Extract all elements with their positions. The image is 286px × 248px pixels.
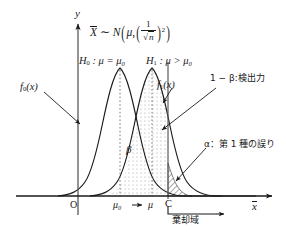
h1-value: μ₀ — [183, 55, 192, 66]
leader-line-f0 — [44, 92, 80, 124]
formula-xbar: X — [90, 27, 97, 39]
formula-tilde: ∼ — [100, 26, 110, 38]
power-annotation: 1 − β:検出力 — [210, 74, 265, 83]
f1-arg: (x) — [163, 79, 175, 90]
null-hypothesis-label: H0 : μ = μ₀ — [79, 56, 125, 67]
f0-annotation: f0(x) — [20, 82, 38, 93]
origin-label: O — [70, 200, 77, 210]
h1-param: μ — [166, 55, 171, 66]
tick-label-c: C — [165, 199, 172, 210]
h0-sub: 0 — [87, 59, 90, 66]
h1-name: H — [146, 55, 154, 66]
statistical-hypothesis-test-figure: y X ∼ N(μ,(1√n)2) H0 : μ = μ₀ H1 : μ > μ… — [0, 0, 286, 248]
tick-label-mu0: μ₀ — [113, 200, 122, 210]
y-axis-label: y — [75, 8, 80, 19]
f1-annotation: f1(x) — [157, 80, 175, 91]
distribution-formula: X ∼ N(μ,(1√n)2) — [90, 20, 171, 43]
h1-relation: > — [174, 55, 181, 66]
leader-line-alpha — [176, 148, 206, 181]
formula-exponent: 2 — [162, 26, 166, 34]
x-axis-label: x — [252, 201, 257, 212]
h0-name: H — [79, 55, 87, 66]
h1-colon: : — [159, 55, 163, 66]
sqrt-radicand: n — [148, 31, 154, 43]
formula-comma: , — [132, 26, 135, 38]
x-axis-label-text: x — [252, 201, 257, 212]
h0-param: μ — [99, 55, 104, 66]
alpha-error-annotation: α：第 1 種の誤り — [204, 140, 275, 149]
formula-fraction: 1√n — [141, 20, 156, 42]
rejection-region-bracket — [168, 206, 216, 214]
f0-arg: (x) — [26, 81, 38, 92]
h1-sub: 1 — [154, 59, 157, 66]
leader-line-power — [162, 88, 216, 130]
h0-relation: = — [107, 55, 114, 66]
fraction-numerator: 1 — [141, 20, 156, 31]
h0-value: μ₀ — [116, 55, 125, 66]
h0-colon: : — [92, 55, 96, 66]
fraction-denominator: √n — [141, 31, 156, 43]
formula-dist: N — [113, 26, 121, 38]
rejection-region-label: 棄却域 — [172, 216, 199, 225]
beta-region-label: β — [126, 144, 131, 155]
tick-label-mu: μ — [148, 200, 153, 210]
alt-hypothesis-label: H1 : μ > μ₀ — [146, 56, 192, 67]
